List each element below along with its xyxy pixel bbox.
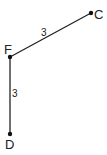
point-d <box>8 132 12 136</box>
length-label-fc: 3 <box>41 27 47 38</box>
geometry-diagram: F C D 3 3 <box>0 0 107 155</box>
label-d: D <box>5 137 14 152</box>
segment-fc <box>10 13 91 57</box>
label-c: C <box>94 7 103 22</box>
point-c <box>89 11 93 15</box>
length-label-fd: 3 <box>12 88 18 99</box>
label-f: F <box>4 42 12 57</box>
